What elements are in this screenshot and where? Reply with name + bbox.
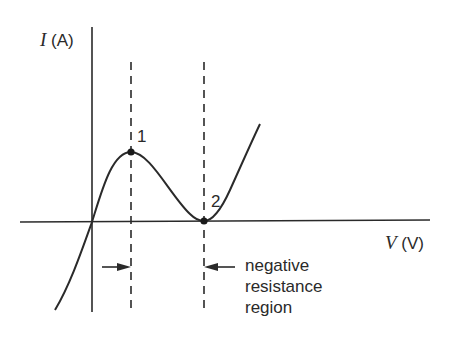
valley-point: [200, 217, 207, 224]
peak-point: [127, 148, 134, 155]
x-axis: [20, 220, 430, 222]
iv-curve-diagram: [0, 0, 451, 347]
annotation-line-2: resistance: [245, 278, 322, 295]
x-axis-label: V (V): [385, 233, 424, 252]
annotation-line-3: region: [245, 299, 292, 316]
point-1-label: 1: [137, 128, 146, 145]
iv-curve: [55, 124, 260, 310]
y-axis-label: I (A): [40, 30, 74, 49]
x-axis-symbol: V: [385, 232, 397, 253]
x-axis-unit: (V): [401, 234, 424, 253]
arrow-left-icon: [204, 263, 235, 271]
y-axis-symbol: I: [40, 29, 46, 50]
y-axis-unit: (A): [51, 31, 74, 50]
annotation-line-1: negative: [245, 257, 309, 274]
point-2-label: 2: [211, 193, 220, 210]
arrow-right-icon: [102, 263, 131, 271]
